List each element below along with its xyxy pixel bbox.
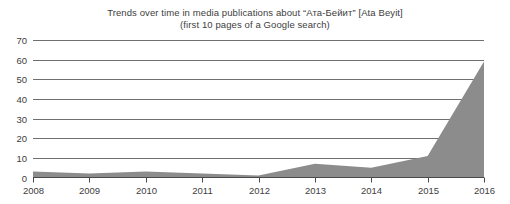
x-tick-label: 2014 (361, 185, 382, 196)
y-tick-label: 70 (16, 35, 27, 46)
x-tick-label: 2010 (136, 185, 157, 196)
y-tick-label: 20 (16, 133, 27, 144)
y-tick-label: 0 (22, 173, 27, 184)
x-tick-label: 2009 (79, 185, 100, 196)
gridline-group (33, 41, 484, 159)
x-tick-label: 2015 (418, 185, 439, 196)
x-axis-tick-marks (34, 178, 485, 183)
x-tick-label: 2013 (305, 185, 326, 196)
x-tick-label: 2011 (192, 185, 212, 196)
y-tick-label: 30 (16, 114, 27, 125)
y-tick-label: 50 (16, 74, 27, 85)
chart-container: Trends over time in media publications a… (0, 0, 510, 204)
x-tick-label: 2012 (249, 185, 270, 196)
x-tick-label: 2008 (23, 185, 44, 196)
x-axis-tick-labels: 200820092010201120122013201420152016 (23, 185, 495, 196)
x-tick-label: 2016 (474, 185, 495, 196)
y-tick-label: 10 (16, 153, 27, 164)
y-tick-label: 40 (16, 94, 27, 105)
y-axis-tick-labels: 010203040506070 (16, 35, 27, 184)
chart-plot: 010203040506070 200820092010201120122013… (0, 0, 510, 204)
y-tick-label: 60 (16, 55, 27, 66)
